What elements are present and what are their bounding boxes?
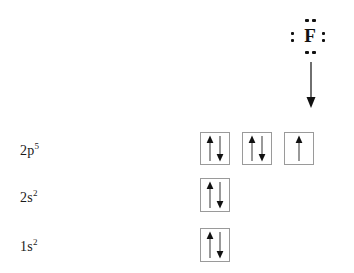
orbital-label-2p: 2p5 bbox=[20, 141, 39, 159]
orbital-box-2p-1 bbox=[200, 132, 230, 165]
orbital-box-1s bbox=[200, 228, 230, 262]
lone-pair-dot bbox=[305, 19, 309, 23]
spin-up-arrow-icon bbox=[296, 136, 303, 162]
lone-pair-dot bbox=[305, 51, 309, 55]
orbital-label-1s: 1s2 bbox=[20, 237, 38, 255]
spin-up-arrow-icon bbox=[207, 232, 214, 259]
spin-up-arrow-icon bbox=[249, 136, 256, 162]
spin-down-arrow-icon bbox=[259, 136, 266, 162]
spin-down-arrow-icon bbox=[217, 232, 224, 259]
spin-up-arrow-icon bbox=[207, 136, 214, 162]
spin-up-arrow-icon bbox=[207, 182, 214, 209]
orbital-label-2s: 2s2 bbox=[20, 188, 38, 206]
lewis-structure: F bbox=[289, 15, 331, 57]
lone-pair-dot bbox=[312, 51, 316, 55]
spin-down-arrow-icon bbox=[217, 182, 224, 209]
orbital-box-2p-3 bbox=[284, 132, 314, 165]
lone-pair-dot bbox=[312, 19, 316, 23]
orbital-box-2p-2 bbox=[242, 132, 272, 165]
down-arrow-icon bbox=[303, 60, 319, 110]
orbital-box-2s bbox=[200, 178, 230, 212]
electron-configuration-diagram: F 2p5 2s2 1s2 bbox=[0, 0, 354, 273]
element-symbol: F bbox=[289, 15, 331, 57]
spin-down-arrow-icon bbox=[217, 136, 224, 162]
